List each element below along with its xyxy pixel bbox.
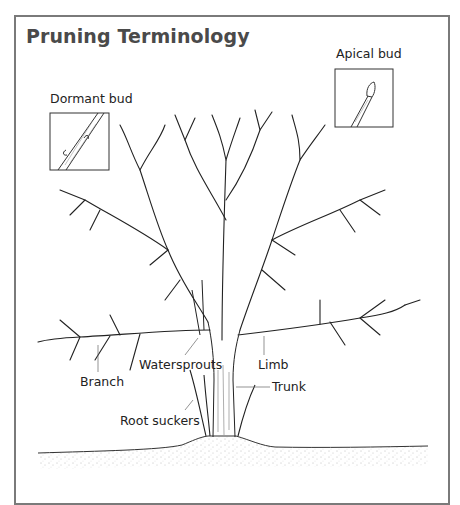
root-suckers	[190, 370, 255, 436]
trunk	[208, 322, 240, 437]
apical-bud-inset	[335, 69, 393, 127]
dormant-bud-inset	[50, 113, 109, 170]
leader-lines	[98, 336, 270, 410]
watersprouts	[192, 280, 204, 335]
ground	[38, 436, 428, 469]
